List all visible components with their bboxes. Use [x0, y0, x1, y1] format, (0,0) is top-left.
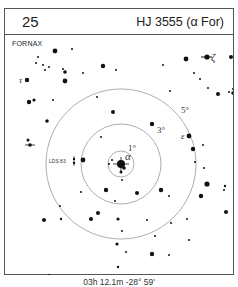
constellation-label: FORNAX	[12, 40, 42, 47]
star-dot	[216, 92, 220, 96]
star-dot	[59, 205, 61, 207]
star-dot	[223, 189, 225, 191]
star-dot	[81, 158, 86, 163]
star-dot	[199, 78, 201, 80]
star-dot	[204, 181, 209, 186]
star-dot	[80, 191, 82, 193]
star-dot	[96, 211, 100, 215]
star-dot	[191, 147, 195, 151]
tau-star	[25, 78, 29, 82]
star-dot	[32, 98, 35, 101]
chart-frame: 25 HJ 3555 (α For) αεζτLDS 831°3°5° FORN…	[4, 8, 234, 275]
star-dot	[202, 144, 204, 146]
star-dot	[188, 239, 190, 241]
star-dot	[203, 167, 205, 169]
star-dot	[125, 251, 127, 253]
star-field: αεζτLDS 831°3°5° FORNAX	[5, 35, 233, 274]
star-dot	[114, 200, 116, 202]
star-dot	[44, 69, 46, 71]
ring-5-label: 5°	[181, 105, 190, 115]
star-map: αεζτLDS 831°3°5°	[5, 35, 233, 275]
star-dot	[193, 72, 195, 74]
star-dot	[111, 110, 115, 114]
star-dot	[224, 185, 226, 187]
star-dot	[115, 242, 118, 245]
star-dot	[135, 191, 139, 195]
star-dot	[47, 274, 51, 275]
coordinates-caption: 03h 12.1m -28° 59'	[0, 277, 238, 287]
star-dot	[150, 122, 154, 126]
ring-1-label: 1°	[128, 143, 137, 153]
star-dot	[101, 64, 105, 68]
star-dot	[111, 159, 113, 161]
star-dot	[169, 90, 171, 92]
star-dot	[63, 79, 68, 84]
star-dot	[194, 161, 196, 163]
star-dot	[117, 266, 119, 268]
star-dot	[231, 91, 233, 95]
star-dot	[104, 188, 108, 192]
star-dot	[27, 139, 30, 142]
star-dot	[116, 217, 119, 220]
zeta-label: ζ	[211, 51, 217, 64]
chart-title: HJ 3555 (α For)	[136, 15, 224, 29]
epsilon-label: ε	[181, 131, 185, 141]
star-dot	[184, 57, 189, 62]
star-dot	[45, 119, 49, 123]
star-dot	[48, 66, 50, 68]
lds-label: LDS 83	[49, 158, 66, 164]
star-dot	[108, 163, 110, 165]
star-dot	[207, 87, 209, 89]
star-dot	[115, 69, 117, 71]
star-dot	[60, 218, 62, 220]
star-dot	[100, 136, 102, 138]
star-dot	[199, 194, 203, 198]
star-dot	[168, 195, 170, 197]
star-dot	[121, 179, 123, 181]
star-dot	[89, 217, 93, 221]
star-dot	[168, 254, 170, 256]
epsilon-star	[187, 134, 192, 139]
star-dot	[229, 55, 233, 59]
star-dot	[63, 70, 67, 74]
star-dot	[53, 49, 58, 54]
star-dot	[35, 62, 37, 64]
star-dot	[42, 218, 46, 222]
star-dot	[42, 64, 44, 66]
star-dot	[228, 91, 230, 93]
star-dot	[62, 68, 64, 70]
star-dot	[170, 222, 172, 224]
star-dot	[154, 235, 156, 237]
star-dot	[162, 64, 164, 66]
star-dot	[96, 96, 98, 98]
ring-3-label: 3°	[157, 125, 166, 135]
star-dot	[27, 100, 31, 104]
chart-number: 25	[22, 13, 39, 30]
star-dot	[159, 188, 163, 192]
chart-header: 25 HJ 3555 (α For)	[5, 9, 233, 35]
tau-label: τ	[19, 75, 23, 85]
star-dot	[232, 88, 233, 90]
star-dot	[82, 72, 84, 74]
star-dot	[52, 99, 54, 101]
star-dot	[224, 210, 228, 214]
star-dot	[121, 230, 123, 232]
star-dot	[186, 218, 188, 220]
star-dot	[150, 252, 154, 256]
star-dot	[37, 56, 39, 58]
star-dot	[71, 48, 73, 50]
star-dot	[146, 219, 148, 221]
